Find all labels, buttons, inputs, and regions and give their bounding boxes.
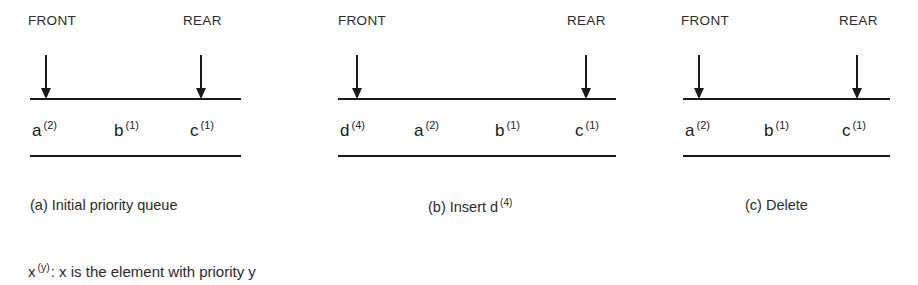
panel-b-element-3: c(1)	[575, 120, 599, 139]
panel-b-rear-label: REAR	[567, 14, 606, 28]
panel-c-bottom-rule	[683, 155, 890, 157]
panel-c-caption: (c) Delete	[745, 198, 808, 213]
panel-c-rear-label: REAR	[839, 14, 878, 28]
panel-a-rear-arrow	[196, 55, 207, 99]
panel-a-front-arrow	[41, 55, 52, 99]
panel-c: FRONT REAR a(2) b(1) c(1)	[620, 0, 918, 180]
element-priority: (1)	[125, 119, 138, 131]
element-name: d	[340, 121, 349, 140]
panel-b-front-arrow	[352, 55, 363, 99]
element-name: b	[495, 121, 504, 140]
element-name: c	[190, 121, 199, 140]
priority-queue-figure: FRONT REAR a(2) b(1) c(1) FRONT REAR	[0, 0, 918, 285]
panel-b: FRONT REAR d(4) a(2) b(1) c(1)	[300, 0, 620, 180]
element-priority: (1)	[853, 119, 866, 131]
panel-a-element-1: b(1)	[114, 120, 139, 139]
panel-a-top-rule	[30, 98, 241, 100]
panel-c-front-label: FRONT	[681, 14, 729, 28]
legend-symbol-superscript: (y)	[38, 261, 50, 273]
element-priority: (1)	[201, 119, 214, 131]
panel-c-element-0: a(2)	[685, 120, 710, 139]
element-name: c	[842, 121, 851, 140]
panel-b-caption-superscript: (4)	[500, 197, 512, 208]
panel-b-element-1: a(2)	[414, 120, 439, 139]
legend-text: : x is the element with priority y	[51, 263, 256, 280]
panel-c-front-arrow	[694, 55, 705, 99]
panel-a-front-label: FRONT	[28, 14, 76, 28]
panel-a-element-0: a(2)	[32, 120, 57, 139]
element-priority: (1)	[586, 119, 599, 131]
panel-b-top-rule	[338, 98, 616, 100]
element-name: a	[685, 121, 694, 140]
element-priority: (2)	[696, 119, 709, 131]
panel-c-top-rule	[683, 98, 890, 100]
panel-b-caption: (b) Insert d(4)	[428, 198, 512, 214]
element-name: a	[414, 121, 423, 140]
element-priority: (4)	[351, 119, 364, 131]
element-name: a	[32, 121, 41, 140]
element-priority: (2)	[43, 119, 56, 131]
panel-a-element-2: c(1)	[190, 120, 214, 139]
panel-a-bottom-rule	[30, 155, 241, 157]
element-name: b	[764, 121, 773, 140]
panel-c-rear-arrow	[852, 55, 863, 99]
panel-b-caption-text: (b) Insert d	[428, 199, 498, 215]
panel-a: FRONT REAR a(2) b(1) c(1)	[0, 0, 300, 180]
element-priority: (2)	[425, 119, 438, 131]
panel-c-element-2: c(1)	[842, 120, 866, 139]
legend-symbol: x	[28, 263, 36, 280]
legend-note: x(y): x is the element with priority y	[28, 262, 256, 279]
panel-a-caption: (a) Initial priority queue	[30, 198, 178, 213]
element-name: b	[114, 121, 123, 140]
panel-b-rear-arrow	[581, 55, 592, 99]
panel-b-element-2: b(1)	[495, 120, 520, 139]
element-name: c	[575, 121, 584, 140]
panel-b-front-label: FRONT	[338, 14, 386, 28]
panel-c-element-1: b(1)	[764, 120, 789, 139]
element-priority: (1)	[506, 119, 519, 131]
panel-a-rear-label: REAR	[183, 14, 222, 28]
element-priority: (1)	[775, 119, 788, 131]
panel-b-bottom-rule	[338, 155, 616, 157]
panel-b-element-0: d(4)	[340, 120, 365, 139]
